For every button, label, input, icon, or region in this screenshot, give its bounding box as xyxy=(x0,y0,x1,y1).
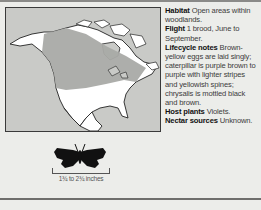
bottom-rule xyxy=(0,198,261,200)
habitat-label: Habitat xyxy=(165,6,190,15)
flight-entry: Flight 1 brood, June to September. xyxy=(165,24,259,42)
range-map xyxy=(5,7,161,132)
lifecycle-label: Lifecycle notes xyxy=(165,43,218,52)
host-plants-entry: Host plants Violets. xyxy=(165,107,259,116)
nectar-sources-value: Unknown. xyxy=(220,116,253,125)
flight-label: Flight xyxy=(165,24,185,33)
top-rule xyxy=(0,0,261,2)
north-america-map-icon xyxy=(6,8,160,131)
nectar-sources-label: Nectar sources xyxy=(165,116,218,125)
size-scale-bracket xyxy=(52,168,110,174)
wingspan-label: 1¾ to 2¾ inches xyxy=(50,175,112,182)
lifecycle-value: Brown-yellow eggs are laid singly; cater… xyxy=(165,43,255,107)
nectar-sources-entry: Nectar sources Unknown. xyxy=(165,116,259,125)
host-plants-label: Host plants xyxy=(165,107,205,116)
host-plants-value: Violets. xyxy=(207,107,231,116)
lifecycle-entry: Lifecycle notes Brown-yellow eggs are la… xyxy=(165,43,259,107)
habitat-entry: Habitat Open areas within woodlands. xyxy=(165,6,259,24)
butterfly-silhouette-icon xyxy=(53,144,107,170)
species-details: Habitat Open areas within woodlands. Fli… xyxy=(165,6,259,126)
